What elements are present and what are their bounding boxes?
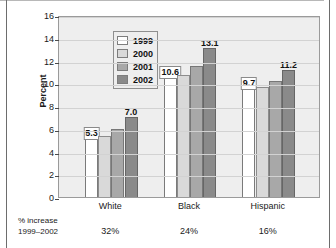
bar-black-1999 bbox=[164, 76, 177, 197]
frame-left-border bbox=[6, 0, 7, 248]
footer-caption: % increase 1999–2002 bbox=[18, 215, 58, 237]
bar-value-label: 7.0 bbox=[125, 107, 138, 118]
bar-hispanic-2002 bbox=[282, 70, 295, 197]
y-axis-tick-label: 6 bbox=[49, 125, 54, 135]
legend-item-label: 2000 bbox=[133, 49, 153, 59]
legend-item-label: 2002 bbox=[133, 75, 153, 85]
bar-hispanic-2000 bbox=[256, 87, 269, 197]
gridline bbox=[59, 63, 319, 64]
x-axis-label-black: Black bbox=[178, 201, 200, 211]
gridline bbox=[59, 85, 319, 86]
bar-white-2002 bbox=[125, 117, 138, 197]
footer-value-white: 32% bbox=[101, 226, 119, 236]
y-axis-tick-label: 8 bbox=[49, 102, 54, 112]
bar-hispanic-1999 bbox=[242, 87, 255, 197]
bar-white-2000 bbox=[98, 136, 111, 197]
gridline bbox=[59, 154, 319, 155]
bar-chart: Percent 0246810121416 5.37.010.613.19.71… bbox=[14, 8, 322, 240]
y-axis-tick bbox=[55, 108, 59, 109]
legend-item-2002: 2002 bbox=[117, 73, 153, 86]
gridline bbox=[59, 17, 319, 18]
y-axis-tick-label: 12 bbox=[44, 57, 54, 67]
y-axis-tick bbox=[55, 63, 59, 64]
bars-layer: 5.37.010.613.19.711.2 bbox=[59, 17, 319, 197]
bar-hispanic-2001 bbox=[269, 81, 282, 197]
y-axis-tick bbox=[55, 154, 59, 155]
y-axis-tick-labels: 0246810121416 bbox=[32, 16, 54, 198]
bar-black-2002 bbox=[203, 48, 216, 197]
y-axis-tick-label: 10 bbox=[44, 79, 54, 89]
chart-screenshot: Percent 0246810121416 5.37.010.613.19.71… bbox=[0, 0, 336, 248]
y-axis-tick bbox=[55, 199, 59, 200]
bar-white-1999 bbox=[85, 137, 98, 197]
footer-caption-line2: 1999–2002 bbox=[18, 226, 58, 237]
legend-item-2000: 2000 bbox=[117, 47, 153, 60]
frame-bottom-border bbox=[0, 0, 324, 1]
legend-swatch-icon bbox=[117, 75, 128, 84]
bar-black-2000 bbox=[177, 75, 190, 197]
gridline bbox=[59, 131, 319, 132]
plot-area: 5.37.010.613.19.711.2 1999200020012002 bbox=[58, 16, 320, 198]
x-axis-label-hispanic: Hispanic bbox=[250, 201, 285, 211]
y-axis-tick bbox=[55, 40, 59, 41]
y-axis-tick-label: 2 bbox=[49, 170, 54, 180]
bar-white-2001 bbox=[111, 129, 124, 197]
y-axis-tick bbox=[55, 131, 59, 132]
footer-row: % increase 1999–2002 32%24%16% bbox=[14, 215, 322, 241]
y-axis-tick-label: 16 bbox=[44, 11, 54, 21]
y-axis-tick-label: 0 bbox=[49, 193, 54, 203]
x-axis-label-white: White bbox=[99, 201, 122, 211]
y-axis-tick bbox=[55, 85, 59, 86]
footer-value-hispanic: 16% bbox=[259, 226, 277, 236]
gridline bbox=[59, 176, 319, 177]
y-axis-tick bbox=[55, 176, 59, 177]
gridline bbox=[59, 108, 319, 109]
footer-value-black: 24% bbox=[180, 226, 198, 236]
frame-right-border bbox=[329, 0, 330, 248]
gridline bbox=[59, 40, 319, 41]
y-axis-tick-label: 4 bbox=[49, 148, 54, 158]
footer-caption-line1: % increase bbox=[18, 215, 58, 226]
bar-value-label: 11.2 bbox=[280, 60, 297, 71]
legend-swatch-icon bbox=[117, 49, 128, 58]
y-axis-tick bbox=[55, 17, 59, 18]
y-axis-tick-label: 14 bbox=[44, 34, 54, 44]
